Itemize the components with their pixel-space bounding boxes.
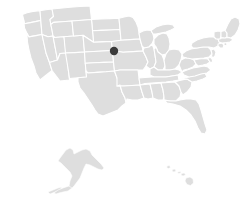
state-minnesota[interactable] [119, 16, 140, 40]
state-arkansas[interactable] [115, 70, 141, 86]
state-pennsylvania[interactable] [182, 47, 212, 59]
state-michigan-upper[interactable] [151, 24, 175, 34]
hawaii-molokai[interactable] [178, 172, 182, 174]
state-wyoming[interactable] [51, 21, 74, 38]
states-group [23, 6, 241, 194]
state-kansas-body[interactable] [85, 51, 114, 64]
state-maryland[interactable] [194, 59, 210, 67]
hawaii-big-island[interactable] [185, 177, 194, 186]
us-map-svg [0, 0, 245, 213]
hawaii-maui[interactable] [181, 173, 186, 176]
state-missouri[interactable] [113, 51, 149, 72]
hawaii-oahu[interactable] [172, 169, 176, 172]
state-connecticut[interactable] [218, 43, 224, 48]
state-new-mexico[interactable] [66, 52, 87, 79]
state-alaska[interactable] [58, 148, 104, 189]
state-vermont[interactable] [214, 31, 221, 39]
state-maine[interactable] [225, 17, 240, 38]
state-new-jersey[interactable] [211, 49, 216, 58]
us-map-container [0, 0, 245, 213]
state-north-dakota[interactable] [92, 18, 121, 31]
state-colorado[interactable] [64, 35, 85, 53]
hawaii-kauai[interactable] [167, 166, 171, 169]
marker-north-dakota[interactable] [110, 47, 118, 55]
state-florida[interactable] [164, 99, 207, 134]
